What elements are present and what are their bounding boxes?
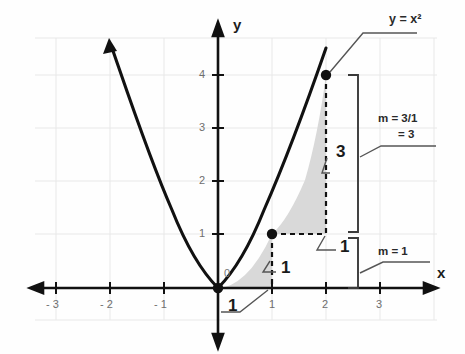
slope-lower-label: m = 1 xyxy=(378,245,408,257)
grid-lines xyxy=(35,38,437,320)
leader-slope-lower xyxy=(360,262,430,273)
x-axis-label: x xyxy=(437,265,445,281)
y-tick-label-3: 3 xyxy=(199,122,205,134)
slope-upper-label-line2: = 3 xyxy=(398,128,414,140)
point-1-1 xyxy=(267,229,277,239)
y-axis-arrow-down xyxy=(213,334,223,348)
origin-label: 0 xyxy=(224,268,230,280)
parabola-slope-figure: y x 0 1 2 3 4 - 3 - 2 - 1 1 2 3 y = x² m… xyxy=(0,0,465,354)
run-upper-label: 1 xyxy=(340,238,349,256)
x-tick-label-neg3: - 3 xyxy=(46,299,59,311)
bracket-rise-1 xyxy=(348,238,358,288)
y-tick-label-4: 4 xyxy=(199,69,205,81)
y-axis-label: y xyxy=(233,17,241,33)
leader-curve-label xyxy=(330,33,417,72)
y-tick-label-2: 2 xyxy=(199,175,205,187)
curve-arrow-left xyxy=(103,38,117,54)
x-tick-label-pos3: 3 xyxy=(376,299,382,311)
point-origin xyxy=(213,283,223,293)
rise-lower-label: 1 xyxy=(281,259,290,277)
x-axis-arrow-left xyxy=(30,283,43,293)
run-lower-label: 1 xyxy=(228,297,237,315)
rise-upper-label: 3 xyxy=(336,143,345,161)
x-axis-arrow-right xyxy=(424,283,437,293)
x-tick-label-neg2: - 2 xyxy=(100,299,113,311)
x-tick-label-neg1: - 1 xyxy=(154,299,167,311)
y-tick-label-1: 1 xyxy=(199,228,205,240)
slope-upper-label-line1: m = 3/1 xyxy=(378,112,417,124)
shaded-triangle-upper xyxy=(272,75,326,234)
leader-slope-upper xyxy=(360,146,436,157)
x-tick-label-pos1: 1 xyxy=(269,299,275,311)
curve-equation-label: y = x² xyxy=(389,13,421,26)
y-axis-arrow-up xyxy=(213,22,223,36)
bracket-rise-3 xyxy=(348,75,358,232)
x-tick-label-pos2: 2 xyxy=(322,299,328,311)
